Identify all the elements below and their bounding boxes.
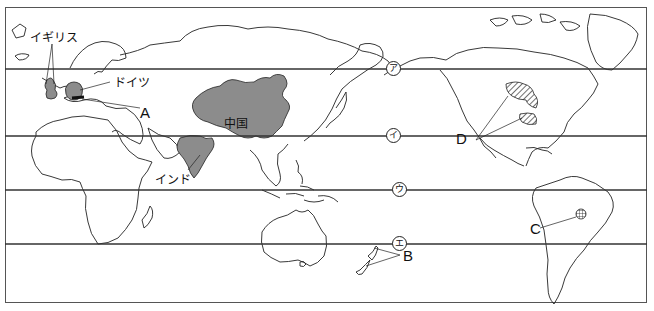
latitude-marker-a: ア	[386, 61, 401, 76]
label-region-a: A	[140, 105, 150, 120]
coastlines	[12, 14, 638, 304]
country-india	[177, 135, 214, 178]
world-map	[0, 0, 654, 311]
label-region-d: D	[456, 131, 467, 146]
latitude-marker-u: ウ	[392, 182, 407, 197]
country-uk	[45, 78, 57, 99]
region-c-area	[576, 209, 586, 219]
label-germany: ドイツ	[114, 77, 150, 89]
label-india: インド	[155, 174, 191, 186]
latitude-marker-i: イ	[386, 128, 401, 143]
region-a-mark	[72, 97, 84, 98]
label-uk: イギリス	[30, 32, 78, 44]
label-china: 中国	[224, 118, 248, 130]
label-region-b: B	[403, 248, 413, 263]
shaded-countries	[45, 74, 290, 178]
label-region-c: C	[530, 221, 541, 236]
latitude-lines	[5, 69, 647, 244]
latitude-marker-e: エ	[392, 236, 407, 251]
